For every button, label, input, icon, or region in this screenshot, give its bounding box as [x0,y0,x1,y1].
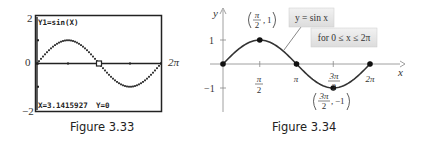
calc-curve-pixel [58,42,60,44]
x-tick-label-pi-over-2: π 2 [255,74,263,95]
calc-x-tick [67,63,69,65]
figure-caption: Figure 3.33 [70,120,134,134]
min-label-comma: , [331,96,333,106]
figure-3-34: y x 1 −1 π 2 π 3π 2 2π π 2 , 1 [200,0,422,141]
calc-curve-pixel [70,40,72,42]
max-label-denominator: 2 [255,20,260,30]
calc-curve-pixel [54,44,56,46]
figure-caption: Figure 3.34 [272,120,336,134]
calc-y0-label: 0 [25,56,31,68]
calc-curve-pixel [44,53,46,55]
calc-curve-pixel [102,67,104,69]
tick-numerator: 3π [328,71,339,81]
x-tick-label-3pi-over-2: 3π 2 [328,71,340,92]
calc-curve-pixel [130,86,132,88]
calc-curve-pixel [136,84,138,86]
min-label-numerator: 3π [318,91,329,101]
calc-curve-pixel [92,56,94,58]
calc-curve-pixel [134,85,136,87]
calc-curve-pixel [158,65,160,67]
calc-xmax-label: 2π [168,56,180,68]
calc-curve-pixel [124,85,126,87]
calc-curve-pixel [156,67,158,69]
calc-y-tick [37,39,39,41]
calc-curve-pixel [42,56,44,58]
callout-domain: for 0 ≤ x ≤ 2π [318,33,371,43]
data-point [220,61,226,67]
calc-curve-pixel [126,86,128,88]
calc-y-readout: Y=0 [96,101,110,110]
calc-curve-pixel [62,40,64,42]
calc-curve-pixel [74,41,76,43]
calc-curve-pixel [108,74,110,76]
x-tick-label-2pi: 2π [365,74,375,84]
calc-curve-pixel [148,76,150,78]
calc-curve-pixel [72,40,74,42]
calc-curve-pixel [46,51,48,53]
x-axis-label: x [397,66,403,78]
calc-curve-pixel [60,41,62,43]
calc-curve-pixel [140,82,142,84]
calc-curve-pixel [40,58,42,60]
calc-curve-pixel [48,49,50,51]
calc-curve-pixel [52,46,54,48]
calc-curve-pixel [78,43,80,45]
calc-curve-pixel [68,39,70,41]
data-point [367,61,373,67]
min-point-label: 3π 2 , −1 [314,91,350,111]
calc-curve-pixel [80,44,82,46]
calc-curve-pixel [138,83,140,85]
x-tick-label-pi: π [294,74,299,84]
calc-curve-pixel [110,76,112,78]
calc-curve-pixel [94,58,96,60]
tick-denominator: 2 [257,85,262,95]
calc-function-label: Y1=sin(X) [38,18,79,27]
calc-curve-pixel [38,60,40,62]
tick-numerator: π [257,74,262,84]
y-tick-label: −1 [204,83,215,94]
calc-curve-pixel [144,79,146,81]
calc-curve-pixel [112,78,114,80]
calc-curve-pixel [66,39,68,41]
calc-ymin-label: −2 [22,105,34,117]
y-axis-label: y [212,7,218,19]
max-point-label: π 2 , 1 [249,10,276,30]
calc-curve-pixel [64,40,66,42]
y-tick-label: 1 [209,35,214,46]
calc-curve-pixel [82,46,84,48]
calc-curve-pixel [150,74,152,76]
calc-curve-pixel [118,82,120,84]
max-label-y: 1 [267,15,272,25]
calc-curve-pixel [104,70,106,72]
tick-denominator: 2 [332,82,337,92]
calc-curve-pixel [116,81,118,83]
calc-curve-pixel [90,53,92,55]
calc-ymax-label: 2 [27,12,33,24]
calc-curve-pixel [84,47,86,49]
calc-curve-pixel [114,79,116,81]
calc-trace-cursor [96,61,101,66]
max-label-numerator: π [255,10,260,20]
calc-curve-pixel [50,47,52,49]
min-label-denominator: 2 [322,101,327,111]
calc-curve-pixel [88,51,90,53]
calc-curve-pixel [86,49,88,51]
calc-curve-pixel [154,70,156,72]
calc-curve-pixel [146,78,148,80]
calc-curve-pixel [106,72,108,74]
data-point [257,37,263,43]
calc-y-tick [37,86,39,88]
calc-curve-pixel [132,86,134,88]
figure-3-33: Y1=sin(X) X=3.1415927 Y=0 2 0 −2 2π Figu… [0,0,200,141]
calc-curve-pixel [122,84,124,86]
min-label-y: −1 [335,96,345,106]
calc-curve-pixel [56,43,58,45]
max-label-comma: , [263,15,265,25]
calc-curve-pixel [76,42,78,44]
calc-curve-pixel [142,81,144,83]
calc-x-readout: X=3.1415927 [38,101,88,110]
calc-curve-pixel [152,72,154,74]
data-point [294,61,300,67]
calc-x-tick [129,63,131,65]
calc-curve-pixel [128,86,130,88]
